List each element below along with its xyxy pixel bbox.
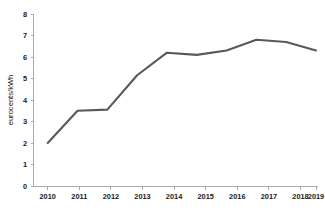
chart-canvas: 8 7 6 5 4 3 2 1 0 2010 2011 2012 2013 20…	[0, 0, 325, 212]
y-tick-label: 1	[23, 160, 27, 169]
x-tick-label: 2019	[308, 192, 324, 201]
y-tick-label: 6	[23, 53, 27, 62]
x-tick-label: 2018	[292, 192, 308, 201]
x-tick-label: 2014	[166, 192, 183, 201]
y-tick-label: 2	[23, 139, 27, 148]
x-tick-label: 2017	[261, 192, 277, 201]
x-tick-label: 2013	[134, 192, 150, 201]
x-tick-label: 2012	[103, 192, 119, 201]
y-axis-label: eurocents/kWh	[6, 75, 15, 126]
x-tick-label: 2015	[197, 192, 213, 201]
x-tick-label: 2016	[229, 192, 245, 201]
chart-background	[0, 0, 325, 212]
line-chart: 8 7 6 5 4 3 2 1 0 2010 2011 2012 2013 20…	[0, 0, 325, 212]
x-tick-label: 2011	[71, 192, 87, 201]
y-tick-label: 5	[23, 74, 27, 83]
y-tick-label: 3	[23, 117, 27, 126]
y-tick-label: 7	[23, 31, 27, 40]
y-tick-label: 8	[23, 10, 27, 19]
x-tick-label: 2010	[39, 192, 55, 201]
y-tick-label: 0	[23, 182, 27, 191]
